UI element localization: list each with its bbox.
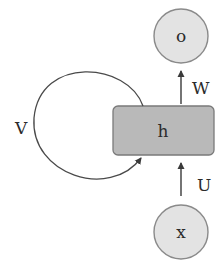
edge-label-v: V	[14, 118, 28, 138]
edge-label-w: W	[192, 78, 210, 98]
input-node-label: x	[176, 222, 186, 242]
hidden-node: h	[113, 106, 214, 155]
output-node: o	[154, 9, 208, 63]
input-node: x	[154, 205, 208, 259]
output-node-label: o	[176, 26, 186, 46]
edge-input-to-hidden: U	[181, 163, 211, 196]
edge-label-u: U	[197, 175, 211, 195]
edge-hidden-to-output: W	[181, 71, 210, 104]
hidden-node-label: h	[158, 121, 169, 141]
rnn-diagram: o W h V U x	[0, 0, 223, 268]
